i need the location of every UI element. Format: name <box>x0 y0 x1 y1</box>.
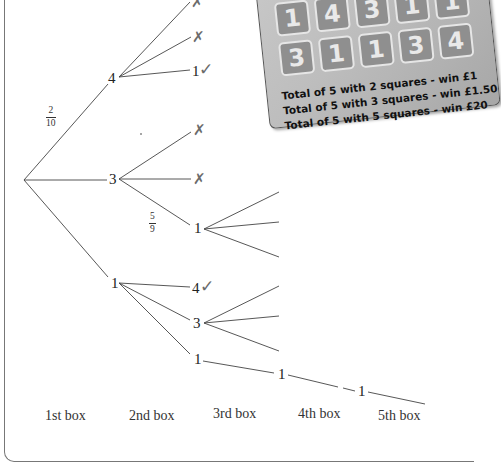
cross-icon: ✗ <box>192 30 205 45</box>
probability-fraction: 5 9 <box>149 212 156 234</box>
axis-label-1st-box: 1st box <box>45 408 86 424</box>
node-box3-1: 1 <box>194 352 202 367</box>
stray-dot <box>140 133 142 135</box>
probability-fraction: 2 10 <box>46 106 56 128</box>
cross-icon: ✗ <box>191 0 204 10</box>
node-box2-3: 3 <box>109 172 117 187</box>
node-box4-1: 1 <box>278 367 286 382</box>
node-box5-1: 1 <box>358 384 366 399</box>
node-box3-4: 4 <box>192 281 200 296</box>
cross-icon: ✗ <box>193 172 206 187</box>
tick-icon: ✓ <box>199 61 213 78</box>
tick-icon: ✓ <box>200 278 214 295</box>
node-box3-1: 1 <box>194 221 202 236</box>
axis-label-3rd-box: 3rd box <box>213 406 256 422</box>
node-box2-4: 4 <box>108 71 116 86</box>
axis-label-5th-box: 5th box <box>378 408 420 424</box>
axis-label-2nd-box: 2nd box <box>129 408 175 424</box>
axis-label-4th-box: 4th box <box>298 406 340 422</box>
cross-icon: ✗ <box>193 123 206 138</box>
node-box2-1: 1 <box>111 276 119 291</box>
node-box3-3: 3 <box>193 316 201 331</box>
